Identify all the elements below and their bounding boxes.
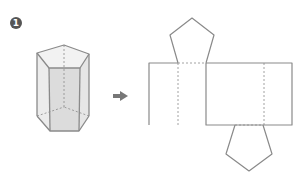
pentagonal-prism-3d	[37, 45, 89, 131]
prism-net	[149, 18, 292, 171]
arrow-right-icon	[113, 91, 128, 101]
prism-figure	[0, 0, 306, 181]
